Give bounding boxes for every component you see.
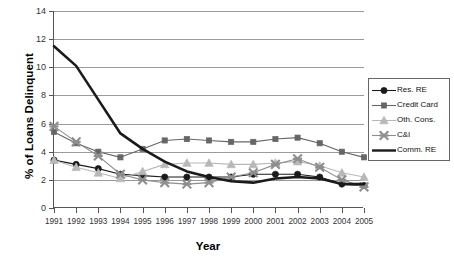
x-tick-label: 1991	[45, 217, 63, 226]
legend-item: Comm. RE	[371, 142, 446, 157]
x-tick	[298, 208, 299, 213]
legend-item: Credit Card	[371, 97, 446, 112]
x-tick-label: 2001	[266, 217, 284, 226]
x-tick-label: 2002	[288, 217, 306, 226]
x-tick-label: 1997	[178, 217, 196, 226]
legend-item: Res. RE	[371, 82, 446, 97]
series-c-i	[49, 122, 368, 191]
x-tick-label: 1995	[133, 217, 151, 226]
series-lines	[54, 11, 364, 208]
chart-legend: Res. RECredit CardOth. Cons.C&IComm. RE	[368, 78, 450, 161]
x-tick-label: 2004	[333, 217, 351, 226]
x-tick-label: 1998	[200, 217, 218, 226]
x-tick-label: 1994	[111, 217, 129, 226]
x-tick	[320, 208, 321, 213]
x-tick-label: 2003	[311, 217, 329, 226]
legend-label: Oth. Cons.	[397, 113, 435, 126]
y-tick-label: 2	[41, 175, 46, 185]
x-tick-label: 2000	[244, 217, 262, 226]
y-tick-label: 6	[41, 119, 46, 129]
legend-star-icon	[371, 128, 397, 141]
x-tick	[253, 208, 254, 213]
x-tick	[120, 208, 121, 213]
legend-line-icon	[371, 143, 397, 156]
legend-item: C&I	[371, 127, 446, 142]
y-tick-label: 12	[36, 34, 46, 44]
x-tick-label: 1996	[156, 217, 174, 226]
legend-label: Res. RE	[397, 83, 427, 96]
plot-area: 02468101214 1991199219931994199519961997…	[53, 11, 363, 208]
x-tick-label: 1993	[89, 217, 107, 226]
x-tick	[143, 208, 144, 213]
x-tick	[275, 208, 276, 213]
legend-circle-icon	[371, 83, 397, 96]
legend-label: Credit Card	[397, 98, 438, 111]
x-tick	[209, 208, 210, 213]
chart-figure: % of Loans Delinquent 02468101214 199119…	[0, 0, 454, 262]
y-tick-label: 8	[41, 90, 46, 100]
legend-label: C&I	[397, 128, 410, 141]
y-tick-label: 0	[41, 203, 46, 213]
y-tick-label: 10	[36, 62, 46, 72]
x-tick	[54, 208, 55, 213]
legend-item: Oth. Cons.	[371, 112, 446, 127]
x-axis-title: Year	[53, 240, 363, 252]
x-tick	[76, 208, 77, 213]
legend-triangle-icon	[371, 113, 397, 126]
x-tick	[165, 208, 166, 213]
x-tick	[98, 208, 99, 213]
x-tick	[364, 208, 365, 213]
y-tick-label: 4	[41, 147, 46, 157]
y-tick-label: 14	[36, 6, 46, 16]
x-tick	[187, 208, 188, 213]
legend-square-icon	[371, 98, 397, 111]
x-tick	[342, 208, 343, 213]
legend-label: Comm. RE	[397, 143, 436, 156]
x-tick-label: 1992	[67, 217, 85, 226]
x-tick	[231, 208, 232, 213]
x-tick-label: 2005	[355, 217, 373, 226]
x-tick-label: 1999	[222, 217, 240, 226]
y-axis-title: % of Loans Delinquent	[23, 41, 35, 191]
